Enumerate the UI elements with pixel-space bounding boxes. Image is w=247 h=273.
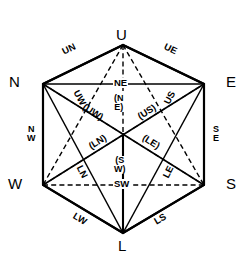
edge-E-to-L — [123, 84, 204, 233]
edge-label-NE: NE — [113, 78, 128, 88]
vertex-label-W: W — [8, 176, 22, 191]
center-label-SW-hidden: (S W) — [113, 156, 127, 174]
vertex-label-N: N — [9, 74, 20, 89]
vertex-label-S: S — [226, 176, 236, 191]
center-label-NE-hidden: (N E) — [113, 94, 125, 112]
edge-label-SW: SW — [113, 179, 130, 189]
edge-label-SE: S E — [213, 125, 219, 143]
hidden-U-to-S — [123, 45, 204, 185]
vertex-label-E: E — [226, 74, 236, 89]
edge-label-NW: N W — [27, 125, 36, 143]
vertex-label-U: U — [116, 27, 127, 42]
diagram-canvas: U N E W S L UN UE N W S E LW LS NE SW UW… — [0, 0, 247, 273]
vertex-label-L: L — [118, 238, 126, 253]
